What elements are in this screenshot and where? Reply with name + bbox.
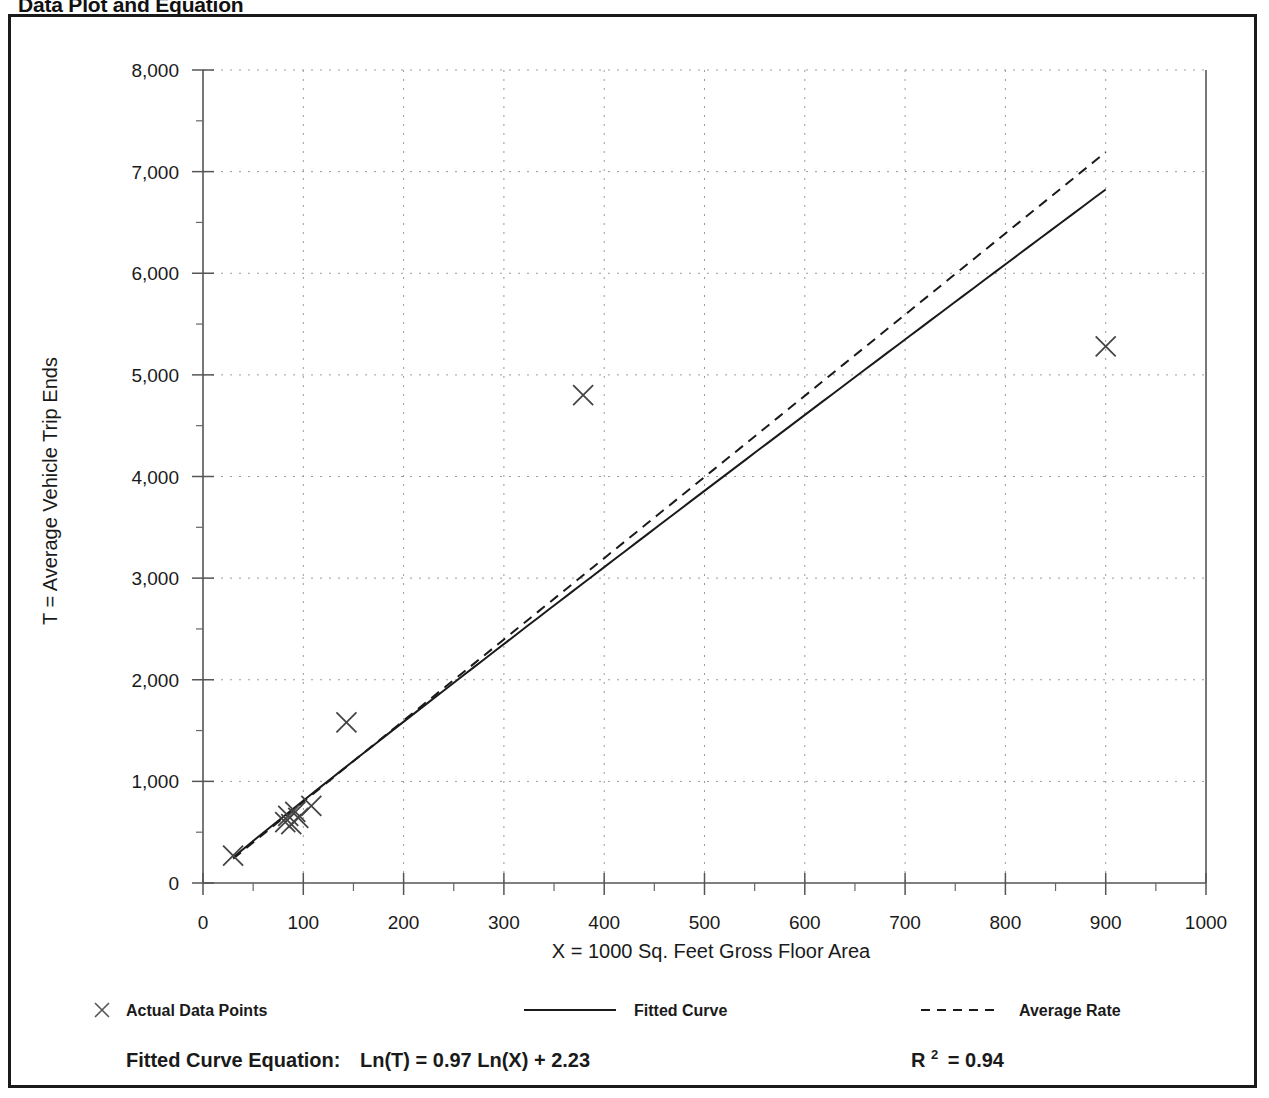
x-tick-label: 300: [488, 912, 520, 933]
y-tick-label: 0: [168, 873, 179, 894]
r-squared-number: = 0.94: [948, 1049, 1005, 1071]
legend-item-average-rate: Average Rate: [921, 1002, 1121, 1019]
x-axis-title: X = 1000 Sq. Feet Gross Floor Area: [552, 940, 871, 962]
footer: Fitted Curve Equation: Ln(T) = 0.97 Ln(X…: [126, 1041, 1005, 1071]
legend-item-actual-data-points: Actual Data Points: [95, 1002, 267, 1019]
figure-frame: 01,0002,0003,0004,0005,0006,0007,0008,00…: [8, 14, 1257, 1088]
x-tick-label: 400: [588, 912, 620, 933]
data-point-marker: [336, 712, 356, 732]
data-point-marker: [573, 385, 593, 405]
legend: Actual Data Points Fitted Curve Average …: [95, 1002, 1121, 1019]
x-tick-label: 0: [198, 912, 209, 933]
x-tick-label: 1000: [1185, 912, 1227, 933]
y-tick-label: 8,000: [131, 60, 179, 81]
y-tick-labels: 01,0002,0003,0004,0005,0006,0007,0008,00…: [131, 60, 179, 894]
data-point-marker: [301, 796, 321, 816]
data-points-layer: [223, 336, 1116, 865]
legend-label-fitted-curve: Fitted Curve: [634, 1002, 727, 1019]
data-point-marker: [223, 846, 243, 866]
fitted-curve-line: [233, 189, 1106, 857]
y-tick-label: 2,000: [131, 670, 179, 691]
x-tick-label: 200: [388, 912, 420, 933]
legend-label-average-rate: Average Rate: [1019, 1002, 1121, 1019]
x-tick-label: 700: [889, 912, 921, 933]
x-tick-label: 100: [287, 912, 319, 933]
data-point-marker: [1096, 336, 1116, 356]
r-squared-value: R 2 = 0.94: [911, 1041, 1005, 1071]
y-tick-label: 5,000: [131, 365, 179, 386]
y-tick-label: 7,000: [131, 162, 179, 183]
equation-value: Ln(T) = 0.97 Ln(X) + 2.23: [360, 1049, 590, 1071]
y-tick-label: 6,000: [131, 263, 179, 284]
y-tick-label: 3,000: [131, 568, 179, 589]
x-tick-label: 500: [689, 912, 721, 933]
x-tick-label: 800: [990, 912, 1022, 933]
equation-label: Fitted Curve Equation:: [126, 1049, 340, 1071]
x-marker-icon: [95, 1003, 109, 1017]
r-squared-exponent: 2: [931, 1047, 938, 1062]
r-squared-symbol: R: [911, 1049, 926, 1071]
data-plot-svg: 01,0002,0003,0004,0005,0006,0007,0008,00…: [11, 17, 1254, 1085]
y-tick-label: 1,000: [131, 771, 179, 792]
data-series-layer: [233, 152, 1106, 858]
x-tick-labels: 01002003004005006007008009001000: [198, 912, 1227, 933]
legend-item-fitted-curve: Fitted Curve: [524, 1002, 727, 1019]
fitted-curve-equation: Fitted Curve Equation: Ln(T) = 0.97 Ln(X…: [126, 1049, 590, 1071]
legend-label-actual-data-points: Actual Data Points: [126, 1002, 267, 1019]
figure-page: Data Plot and Equation 01,0002,0003,0004…: [0, 0, 1269, 1098]
chart-area: 01,0002,0003,0004,0005,0006,0007,0008,00…: [11, 17, 1254, 1085]
x-tick-label: 600: [789, 912, 821, 933]
y-tick-label: 4,000: [131, 467, 179, 488]
y-axis-title: T = Average Vehicle Trip Ends: [39, 357, 61, 625]
x-tick-label: 900: [1090, 912, 1122, 933]
